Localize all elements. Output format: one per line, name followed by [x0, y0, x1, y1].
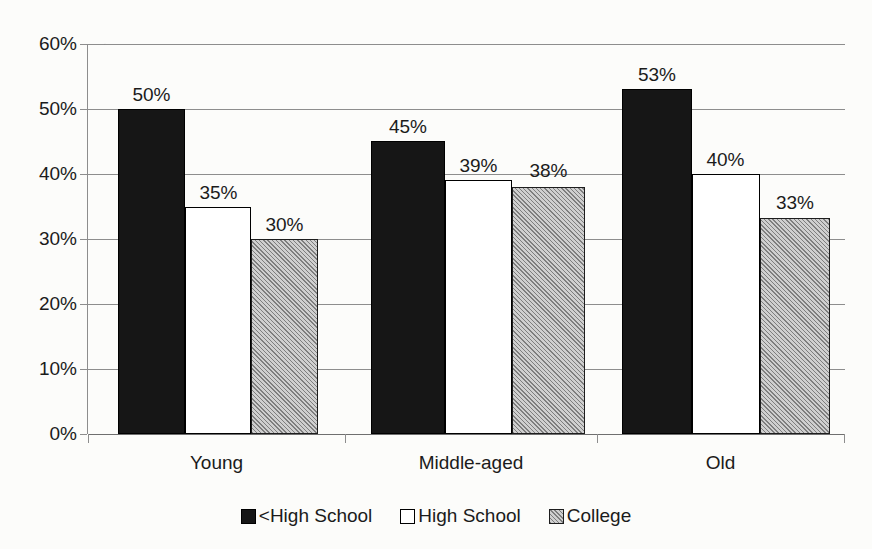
bar-label-old-college: 33%: [751, 192, 839, 214]
bar-young-high-school[interactable]: [185, 207, 251, 434]
bar-label-young-college: 30%: [241, 214, 328, 236]
bar-young-college[interactable]: [251, 239, 318, 434]
y-tick-30: [80, 239, 87, 240]
y-tick-20: [80, 304, 87, 305]
y-tick-40: [80, 174, 87, 175]
legend-item-less-high-school[interactable]: <High School: [241, 505, 373, 527]
y-axis-label-40: 40%: [7, 163, 77, 185]
bar-old-college[interactable]: [760, 218, 830, 434]
category-separator-4: [844, 434, 845, 443]
y-axis-label-20: 20%: [7, 293, 77, 315]
grouped-bar-chart: 60% 50% 40% 30% 20% 10% 0% 50% 3: [0, 0, 872, 549]
category-separator-3: [597, 434, 598, 443]
x-axis-label-middle-aged: Middle-aged: [345, 452, 597, 474]
legend-swatch-solid-black-icon: [241, 509, 256, 524]
y-tick-60: [80, 44, 87, 45]
x-axis-label-old: Old: [597, 452, 844, 474]
legend-swatch-white-outline-icon: [400, 509, 415, 524]
bar-middle-aged-high-school[interactable]: [445, 180, 512, 434]
bar-label-old-less-high-school: 53%: [613, 64, 701, 86]
legend-item-college[interactable]: College: [549, 505, 631, 527]
plot-area: 50% 35% 30% 45% 39% 38% 53% 40% 33%: [88, 44, 845, 434]
bar-label-young-high-school: 35%: [175, 182, 262, 204]
bar-middle-aged-less-high-school[interactable]: [371, 141, 445, 434]
legend-label-less-high-school: <High School: [259, 505, 373, 527]
bar-label-middle-aged-less-high-school: 45%: [364, 116, 452, 138]
chart-legend: <High School High School College: [0, 505, 872, 527]
x-axis-label-young: Young: [88, 452, 345, 474]
y-axis-label-60: 60%: [7, 33, 77, 55]
gridline-50: [88, 109, 845, 110]
y-axis-line: [87, 44, 88, 434]
y-axis-label-0: 0%: [7, 423, 77, 445]
legend-label-college: College: [567, 505, 631, 527]
bar-label-young-less-high-school: 50%: [108, 84, 195, 106]
y-tick-0: [80, 434, 87, 435]
bar-old-high-school[interactable]: [692, 174, 760, 434]
legend-swatch-hatched-gray-icon: [549, 509, 564, 524]
y-axis-label-10: 10%: [7, 358, 77, 380]
legend-label-high-school: High School: [418, 505, 520, 527]
axis-baseline: [88, 434, 845, 435]
bar-old-less-high-school[interactable]: [622, 89, 692, 434]
y-axis-label-30: 30%: [7, 228, 77, 250]
y-tick-50: [80, 109, 87, 110]
category-separator-1: [88, 434, 89, 443]
bar-label-old-high-school: 40%: [682, 149, 769, 171]
legend-item-high-school[interactable]: High School: [400, 505, 520, 527]
y-tick-10: [80, 369, 87, 370]
bar-middle-aged-college[interactable]: [512, 187, 585, 434]
bar-young-less-high-school[interactable]: [118, 109, 185, 434]
gridline-60: [88, 44, 845, 45]
bar-label-middle-aged-college: 38%: [505, 160, 592, 182]
category-separator-2: [345, 434, 346, 443]
y-axis-label-50: 50%: [7, 98, 77, 120]
